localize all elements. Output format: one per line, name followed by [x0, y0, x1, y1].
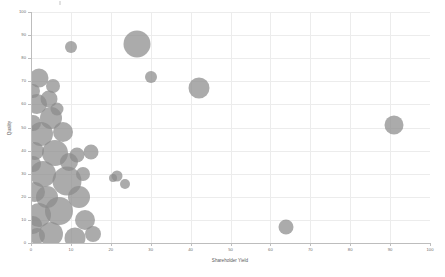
gridline-horizontal — [31, 128, 430, 129]
x-tick-mark — [350, 243, 351, 246]
y-tick-mark — [28, 81, 31, 82]
y-tick-label: 80 — [21, 55, 26, 61]
y-tick-label: 0 — [24, 240, 26, 246]
y-tick-label: 60 — [21, 101, 26, 107]
title-clipped-artifact — [59, 1, 61, 5]
data-point-bubble[interactable] — [31, 228, 45, 243]
x-tick-label: 50 — [228, 247, 233, 253]
bubble-chart: Shareholder Yield Quality 01020304050607… — [0, 0, 445, 277]
x-tick-mark — [31, 243, 32, 246]
y-tick-label: 100 — [19, 9, 26, 15]
data-point-bubble[interactable] — [109, 174, 117, 182]
x-tick-label: 30 — [148, 247, 153, 253]
data-point-bubble[interactable] — [64, 228, 85, 243]
x-tick-mark — [270, 243, 271, 246]
gridline-horizontal — [31, 35, 430, 36]
data-point-bubble[interactable] — [188, 78, 209, 99]
data-point-bubble[interactable] — [53, 122, 73, 142]
x-tick-label: 80 — [348, 247, 353, 253]
gridline-horizontal — [31, 197, 430, 198]
y-tick-mark — [28, 35, 31, 36]
y-tick-mark — [28, 243, 31, 244]
data-point-bubble[interactable] — [123, 31, 150, 58]
y-tick-mark — [28, 220, 31, 221]
plot-area — [31, 12, 430, 243]
data-point-bubble[interactable] — [279, 219, 294, 234]
y-axis-line — [31, 12, 32, 243]
data-point-bubble[interactable] — [76, 167, 90, 181]
x-tick-mark — [191, 243, 192, 246]
x-tick-mark — [151, 243, 152, 246]
data-point-bubble[interactable] — [83, 144, 98, 159]
y-tick-mark — [28, 128, 31, 129]
x-tick-mark — [390, 243, 391, 246]
y-tick-mark — [28, 58, 31, 59]
y-axis-title: Quality — [7, 121, 12, 135]
data-point-bubble[interactable] — [60, 153, 78, 171]
y-tick-label: 20 — [21, 194, 26, 200]
x-tick-label: 90 — [388, 247, 393, 253]
x-tick-mark — [71, 243, 72, 246]
y-tick-mark — [28, 174, 31, 175]
data-point-bubble[interactable] — [385, 116, 404, 135]
y-tick-mark — [28, 104, 31, 105]
y-tick-mark — [28, 12, 31, 13]
data-point-bubble[interactable] — [68, 186, 90, 208]
x-tick-mark — [111, 243, 112, 246]
y-tick-mark — [28, 197, 31, 198]
gridline-horizontal — [31, 174, 430, 175]
gridline-horizontal — [31, 81, 430, 82]
x-axis-title: Shareholder Yield — [212, 258, 248, 263]
y-tick-label: 40 — [21, 148, 26, 154]
gridline-horizontal — [31, 58, 430, 59]
data-point-bubble[interactable] — [50, 103, 63, 116]
x-tick-label: 0 — [30, 247, 32, 253]
data-point-bubble[interactable] — [65, 41, 77, 53]
data-point-bubble[interactable] — [120, 179, 130, 189]
data-point-bubble[interactable] — [85, 226, 101, 242]
x-tick-mark — [310, 243, 311, 246]
x-tick-mark — [430, 243, 431, 246]
x-tick-label: 70 — [308, 247, 313, 253]
x-tick-label: 100 — [427, 247, 434, 253]
y-tick-label: 90 — [21, 32, 26, 38]
gridline-horizontal — [31, 12, 430, 13]
x-tick-label: 60 — [268, 247, 273, 253]
x-tick-label: 20 — [108, 247, 113, 253]
y-tick-mark — [28, 151, 31, 152]
y-tick-label: 70 — [21, 78, 26, 84]
data-point-bubble[interactable] — [145, 71, 157, 83]
y-tick-label: 30 — [21, 171, 26, 177]
x-tick-mark — [231, 243, 232, 246]
y-tick-label: 10 — [21, 217, 26, 223]
x-tick-label: 40 — [188, 247, 193, 253]
y-tick-label: 50 — [21, 125, 26, 131]
data-point-bubble[interactable] — [36, 186, 58, 208]
gridline-horizontal — [31, 104, 430, 105]
x-tick-label: 10 — [69, 247, 74, 253]
